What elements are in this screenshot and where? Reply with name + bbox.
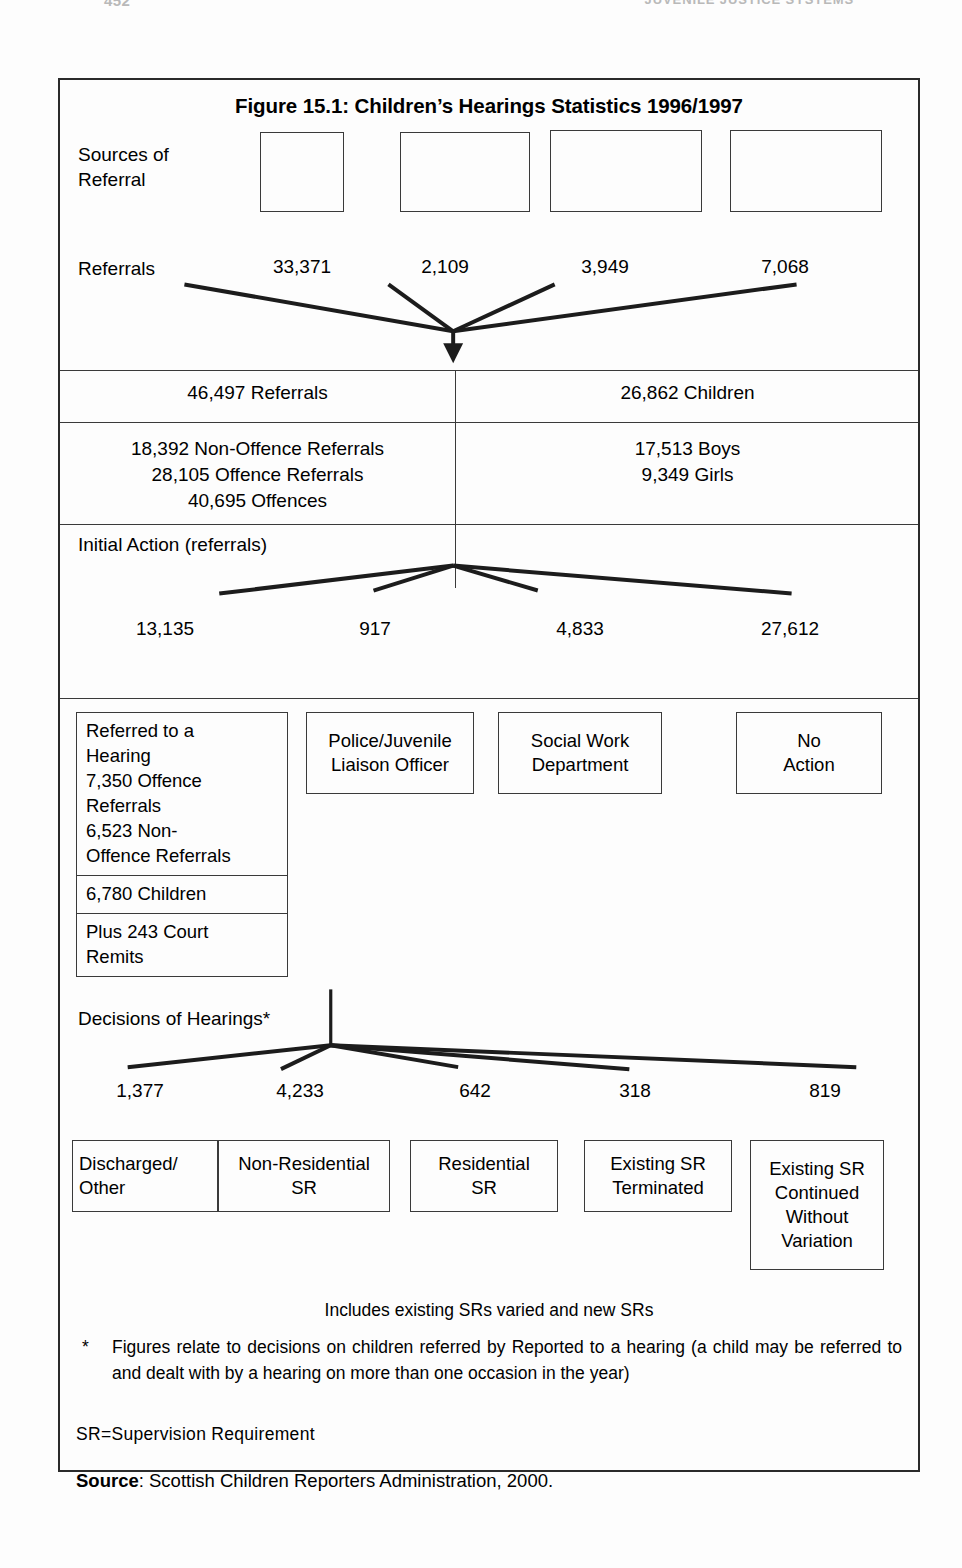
initial-action-label: Initial Action (referrals) xyxy=(78,532,267,557)
footnote-text: Figures relate to decisions on children … xyxy=(112,1337,902,1383)
source-box-4[interactable] xyxy=(730,130,882,212)
referral-value-2: 2,109 xyxy=(390,256,500,278)
referred-to-hearing-stack[interactable]: Referred to a Hearing 7,350 Offence Refe… xyxy=(76,712,288,977)
summary-mid-rule xyxy=(60,422,918,423)
court-remits-count: Plus 243 Court Remits xyxy=(77,914,287,976)
footnote: * Figures relate to decisions on childre… xyxy=(112,1334,902,1386)
referrals-label: Referrals xyxy=(78,256,155,281)
initial-action-value-4: 27,612 xyxy=(720,618,860,640)
sources-of-referral-label: Sources of Referral xyxy=(78,142,169,192)
existing-sr-terminated-box[interactable]: Existing SR Terminated xyxy=(584,1140,732,1212)
initial-action-value-2: 917 xyxy=(315,618,435,640)
existing-sr-continued-box[interactable]: Existing SR Continued Without Variation xyxy=(750,1140,884,1270)
referred-to-hearing-detail: Referred to a Hearing 7,350 Offence Refe… xyxy=(77,713,287,876)
summary-children-total: 26,862 Children xyxy=(457,380,918,406)
summary-children-detail: 17,513 Boys 9,349 Girls xyxy=(457,436,918,488)
source-label: Source xyxy=(76,1470,139,1491)
summary-top-rule xyxy=(60,370,918,371)
initial-action-value-3: 4,833 xyxy=(520,618,640,640)
summary-vertical-divider xyxy=(455,370,456,588)
summary-referrals-total: 46,497 Referrals xyxy=(60,380,455,406)
source-line: Source: Scottish Children Reporters Admi… xyxy=(76,1470,553,1492)
summary-referrals-detail: 18,392 Non-Offence Referrals 28,105 Offe… xyxy=(60,436,455,514)
referral-value-1: 33,371 xyxy=(240,256,364,278)
outcome-section-rule xyxy=(60,698,918,699)
running-head-title: JUVENILE JUSTICE SYSTEMS xyxy=(645,0,854,7)
source-box-2[interactable] xyxy=(400,132,530,212)
referral-value-4: 7,068 xyxy=(730,256,840,278)
decision-value-1: 1,377 xyxy=(60,1080,220,1102)
referred-children-count: 6,780 Children xyxy=(77,876,287,914)
figure-title: Figure 15.1: Children’s Hearings Statist… xyxy=(60,94,918,118)
source-text: : Scottish Children Reporters Administra… xyxy=(139,1470,553,1491)
source-box-1[interactable] xyxy=(260,132,344,212)
social-work-box[interactable]: Social Work Department xyxy=(498,712,662,794)
residential-sr-box[interactable]: Residential SR xyxy=(410,1140,558,1212)
abbreviation-note: SR=Supervision Requirement xyxy=(76,1424,315,1445)
decision-value-5: 819 xyxy=(750,1080,900,1102)
document-page: 452 JUVENILE JUSTICE SYSTEMS Figure 15.1… xyxy=(0,0,962,1568)
source-box-3[interactable] xyxy=(550,130,702,212)
decision-value-3: 642 xyxy=(400,1080,550,1102)
no-action-box[interactable]: No Action xyxy=(736,712,882,794)
summary-bottom-rule xyxy=(60,524,918,525)
initial-action-value-1: 13,135 xyxy=(100,618,230,640)
footnote-marker: * xyxy=(82,1334,89,1360)
referral-value-3: 3,949 xyxy=(550,256,660,278)
decisions-of-hearings-label: Decisions of Hearings* xyxy=(78,1006,270,1031)
police-liaison-box[interactable]: Police/Juvenile Liaison Officer xyxy=(306,712,474,794)
decision-value-2: 4,233 xyxy=(220,1080,380,1102)
running-head-page-number: 452 xyxy=(104,0,130,9)
figure-frame: Figure 15.1: Children’s Hearings Statist… xyxy=(58,78,920,1472)
includes-srs-note: Includes existing SRs varied and new SRs xyxy=(60,1300,918,1321)
non-residential-sr-box[interactable]: Non-Residential SR xyxy=(218,1140,390,1212)
discharged-other-box[interactable]: Discharged/ Other xyxy=(72,1140,218,1212)
decision-value-4: 318 xyxy=(560,1080,710,1102)
